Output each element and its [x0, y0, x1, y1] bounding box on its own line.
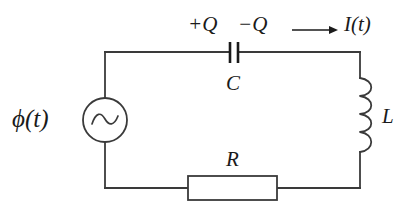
inductor-coils: [360, 78, 371, 152]
negative-charge-label: −Q: [238, 14, 267, 35]
positive-charge-label: +Q: [188, 14, 217, 35]
current-label: I(t): [344, 14, 371, 35]
inductor-label: L: [382, 106, 394, 127]
capacitor-label: C: [226, 73, 240, 94]
source-label: ϕ(t): [12, 106, 49, 131]
current-arrow-head: [329, 26, 338, 34]
resistor-box: [188, 176, 277, 200]
circuit-diagram: ϕ(t) +Q −Q I(t) C L R: [0, 0, 414, 210]
resistor-label: R: [226, 149, 239, 170]
